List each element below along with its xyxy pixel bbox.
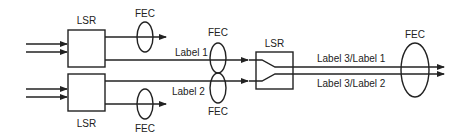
fec-right-label: FEC bbox=[405, 29, 425, 40]
bottom-fec-output: FEC bbox=[105, 89, 166, 134]
lsr-bottom-label: LSR bbox=[77, 118, 96, 129]
label1-path: Label 1 FEC bbox=[105, 27, 248, 73]
lsr-top: LSR bbox=[68, 15, 105, 67]
lsr-middle: LSR bbox=[249, 38, 293, 89]
fec-ellipse-right bbox=[401, 43, 429, 97]
fec-bottom-label: FEC bbox=[135, 123, 155, 134]
lsr-bottom: LSR bbox=[68, 74, 105, 129]
label1-text: Label 1 bbox=[175, 47, 208, 58]
lsr-top-label: LSR bbox=[77, 15, 96, 26]
fec-top-label: FEC bbox=[135, 8, 155, 19]
lsr-middle-label: LSR bbox=[265, 38, 284, 49]
label-stack-output: Label 3/Label 1 Label 3/Label 2 FEC bbox=[293, 29, 444, 97]
fec-ellipse-label1 bbox=[210, 43, 226, 73]
label3-label1-text: Label 3/Label 1 bbox=[317, 53, 386, 64]
input-arrows-top bbox=[26, 44, 67, 52]
label2-text: Label 2 bbox=[172, 86, 205, 97]
fec-label1-label: FEC bbox=[208, 27, 228, 38]
label3-label2-text: Label 3/Label 2 bbox=[317, 78, 386, 89]
label2-path: Label 2 FEC bbox=[105, 73, 248, 117]
top-fec-output: FEC bbox=[105, 8, 166, 52]
fec-ellipse-label2 bbox=[210, 73, 226, 103]
mpls-label-stacking-diagram: LSR LSR FEC FEC Label 1 FEC Label 2 FEC … bbox=[0, 0, 464, 140]
fec-label2-label: FEC bbox=[208, 106, 228, 117]
input-arrows-bottom bbox=[26, 89, 67, 97]
